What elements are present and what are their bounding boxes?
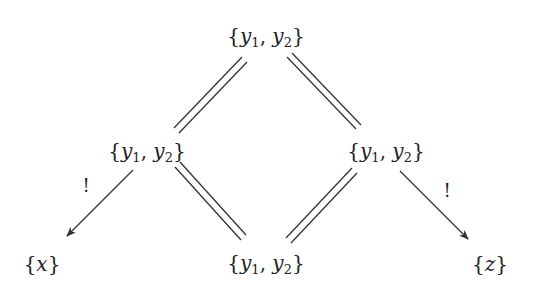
var-y: y xyxy=(240,24,251,48)
arrow-mid-left-to-x xyxy=(67,170,133,236)
rbrace: } xyxy=(173,139,186,163)
lbrace: { xyxy=(472,252,485,276)
var-y: y xyxy=(392,139,403,163)
edge-mid-right-to-bottom-center xyxy=(286,168,357,243)
lbrace: { xyxy=(24,252,37,276)
var-y: y xyxy=(121,139,132,163)
edge-top-to-mid-right xyxy=(287,53,361,129)
rbrace: } xyxy=(48,252,61,276)
rbrace: } xyxy=(292,251,305,275)
var-y: y xyxy=(240,251,251,275)
lbrace: { xyxy=(347,139,360,163)
lbrace: { xyxy=(227,251,240,275)
node-top: {y1, y2} xyxy=(227,24,304,50)
edge-label-left-exclamation: ! xyxy=(82,175,89,196)
node-bottom-right-z: {z} xyxy=(472,252,508,276)
var-y: y xyxy=(272,251,283,275)
var-y: y xyxy=(360,139,371,163)
arrow-mid-right-to-z xyxy=(400,171,468,239)
comma: , xyxy=(260,251,273,275)
rbrace: } xyxy=(495,252,508,276)
lbrace: { xyxy=(108,139,121,163)
rbrace: } xyxy=(292,24,305,48)
comma: , xyxy=(380,139,393,163)
comma: , xyxy=(260,24,273,48)
node-mid-left: {y1, y2} xyxy=(108,139,185,165)
edge-top-to-mid-left xyxy=(174,57,247,133)
node-mid-right: {y1, y2} xyxy=(347,139,424,165)
subscript: 2 xyxy=(165,150,173,165)
comma: , xyxy=(141,139,154,163)
var-y: y xyxy=(153,139,164,163)
rbrace: } xyxy=(412,139,425,163)
edge-label-right-exclamation: ! xyxy=(443,180,450,201)
edge-mid-left-to-bottom-center xyxy=(175,162,246,240)
var-x: x xyxy=(36,252,47,276)
node-bottom-left-x: {x} xyxy=(24,252,61,276)
node-bottom-center: {y1, y2} xyxy=(227,251,304,277)
subscript: 2 xyxy=(404,150,412,165)
lbrace: { xyxy=(227,24,240,48)
diagram-canvas: {y1, y2} {y1, y2} {y1, y2} {x} {y1, y2} … xyxy=(0,0,536,291)
var-z: z xyxy=(485,252,496,276)
subscript: 2 xyxy=(284,35,292,50)
subscript: 2 xyxy=(284,262,292,277)
var-y: y xyxy=(272,24,283,48)
